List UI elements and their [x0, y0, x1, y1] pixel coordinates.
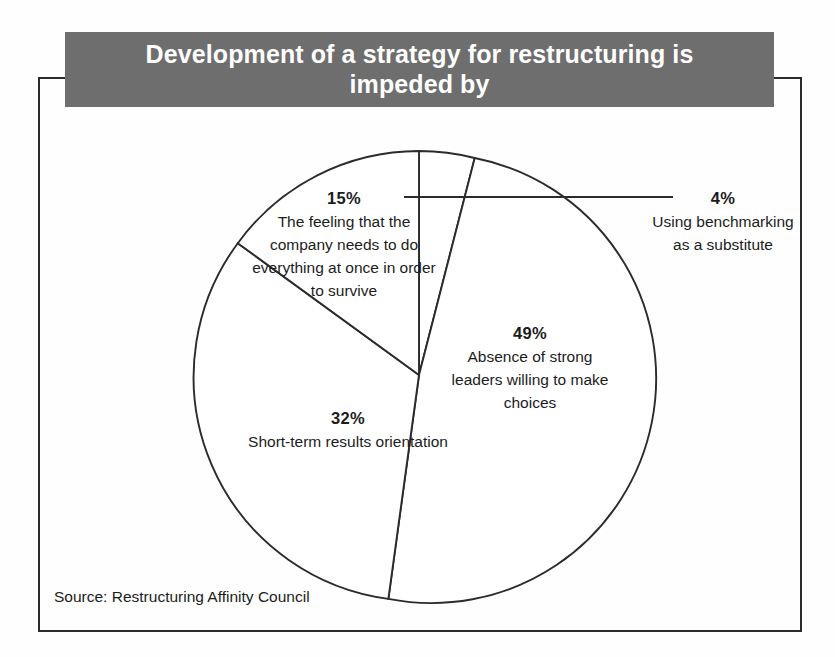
page-title: Development of a strategy for restructur…: [95, 40, 744, 99]
pie-label-4-description: Using benchmarking as a substitute: [644, 211, 802, 257]
pie-label-15-percent: 15%: [250, 186, 438, 210]
pie-label-32-percent: 32%: [248, 406, 448, 430]
pie-label-4: 4% Using benchmarking as a substitute: [644, 186, 802, 257]
pie-label-49: 49% Absence of strong leaders willing to…: [440, 321, 620, 415]
pie-label-15: 15% The feeling that the company needs t…: [250, 186, 438, 303]
chart-title-banner: Development of a strategy for restructur…: [65, 32, 774, 107]
pie-label-4-percent: 4%: [644, 186, 802, 210]
pie-label-32-description: Short-term results orientation: [248, 431, 448, 454]
pie-label-49-percent: 49%: [440, 321, 620, 345]
source-note: Source: Restructuring Affinity Council: [54, 588, 310, 606]
pie-label-49-description: Absence of strong leaders willing to mak…: [440, 346, 620, 415]
pie-label-15-description: The feeling that the company needs to do…: [250, 211, 438, 303]
pie-label-32: 32% Short-term results orientation: [248, 406, 448, 454]
